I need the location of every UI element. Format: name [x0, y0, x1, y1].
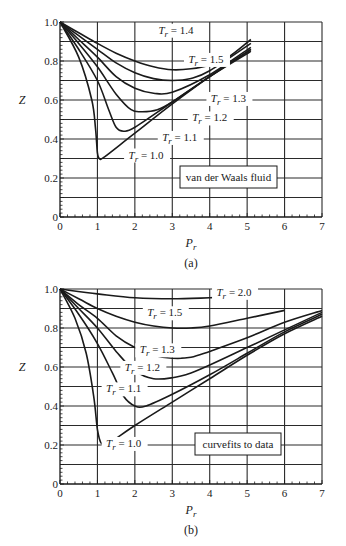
legend-box-label: curvefits to data — [203, 438, 274, 450]
x-axis-label: Pr — [185, 236, 197, 252]
gridlines — [60, 289, 322, 484]
legend-box: van der Waals fluid — [180, 166, 277, 188]
curve-labels: Tr = 1.4Tr = 1.5Tr = 1.3Tr = 1.2Tr = 1.1… — [124, 24, 252, 164]
x-tick-label: 7 — [319, 487, 325, 499]
x-tick-label: 5 — [244, 487, 250, 499]
x-tick-label: 4 — [207, 220, 213, 232]
figure: 0123456700.20.40.60.81.0ZPrTr = 1.4Tr = … — [0, 0, 346, 546]
y-tick-label: 0.8 — [44, 55, 58, 67]
x-tick-label: 3 — [170, 487, 176, 499]
x-tick-label: 2 — [132, 220, 138, 232]
x-tick-label: 0 — [57, 487, 63, 499]
y-tick-label: 0.4 — [44, 400, 58, 412]
y-tick-label: 0.4 — [44, 133, 58, 145]
y-tick-label: 1.0 — [44, 283, 58, 295]
x-tick-label: 7 — [319, 220, 325, 232]
y-axis-label: Z — [19, 93, 26, 107]
x-tick-label: 2 — [132, 487, 138, 499]
curve-labels: Tr = 2.0Tr = 1.5Tr = 1.3Tr = 1.2Tr = 1.1… — [102, 286, 258, 452]
x-axis-label: Pr — [185, 503, 197, 519]
chart-panel-b: 0123456700.20.40.60.81.0ZPrTr = 2.0Tr = … — [0, 267, 346, 540]
x-tick-label: 6 — [282, 220, 288, 232]
y-tick-label: 0.6 — [44, 94, 58, 106]
curve-2.0 — [60, 289, 232, 299]
legend-box: curvefits to data — [195, 433, 281, 455]
chart-panel-a: 0123456700.20.40.60.81.0ZPrTr = 1.4Tr = … — [0, 0, 346, 273]
x-tick-label: 4 — [207, 487, 213, 499]
x-tick-label: 1 — [95, 487, 101, 499]
y-tick-label: 0.6 — [44, 361, 58, 373]
y-tick-label: 0.8 — [44, 322, 58, 334]
panel-caption: (b) — [184, 523, 198, 537]
y-tick-label: 0 — [53, 211, 59, 223]
x-tick-label: 1 — [95, 220, 101, 232]
x-tick-label: 5 — [244, 220, 250, 232]
legend-box-label: van der Waals fluid — [186, 171, 272, 183]
y-tick-label: 0.2 — [44, 172, 58, 184]
y-tick-label: 0 — [53, 478, 59, 490]
y-tick-label: 0.2 — [44, 439, 58, 451]
y-tick-label: 1.0 — [44, 16, 58, 28]
tick-labels: 0123456700.20.40.60.81.0 — [44, 16, 325, 232]
x-tick-label: 0 — [57, 220, 63, 232]
x-tick-label: 3 — [170, 220, 176, 232]
x-tick-label: 6 — [282, 487, 288, 499]
y-axis-label: Z — [19, 360, 26, 374]
